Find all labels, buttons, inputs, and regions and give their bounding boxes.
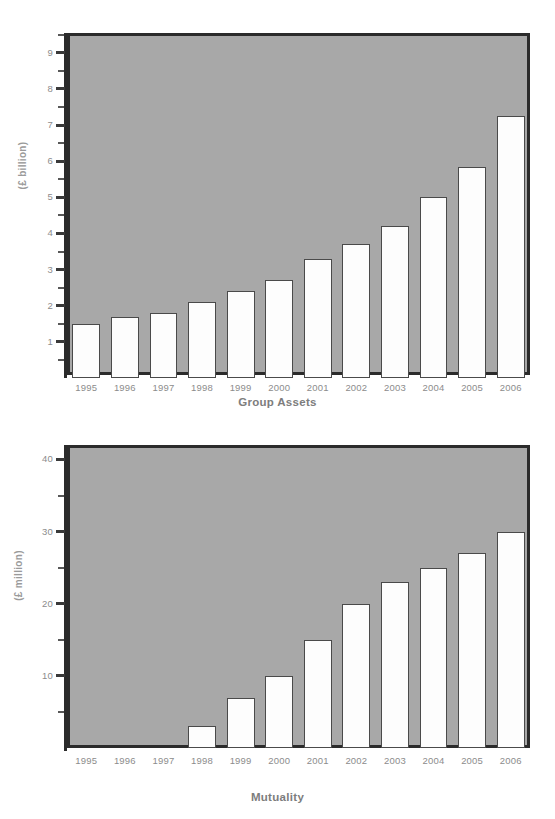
x-tick-label-1998: 1998: [183, 382, 222, 393]
y-tick-label: 4: [29, 227, 53, 238]
bar-group-assets-2005: [458, 167, 486, 378]
y-tick-label: 1: [29, 336, 53, 347]
y-tick-label: 40: [29, 453, 53, 464]
bar-group-assets-1999: [227, 291, 255, 378]
y-tick-label: 6: [29, 155, 53, 166]
y-axis-line: [64, 445, 67, 751]
x-tick-label-2003: 2003: [376, 382, 415, 393]
bar-group-assets-1998: [188, 302, 216, 378]
bar-group-assets-1995: [72, 324, 100, 378]
y-tick-major: [56, 196, 65, 199]
y-tick-label: 3: [29, 264, 53, 275]
y-tick-minor: [58, 251, 64, 253]
x-tick-label-1995: 1995: [67, 755, 106, 766]
y-tick-major: [56, 160, 65, 163]
bar-mutuality-2001: [304, 640, 332, 748]
x-tick-label-1997: 1997: [144, 755, 183, 766]
y-tick-major: [56, 602, 65, 605]
chart-mutuality: 10203040 1995199619971998199920002001200…: [0, 420, 555, 819]
x-tick-label-2005: 2005: [453, 755, 492, 766]
bar-group-assets-2003: [381, 226, 409, 378]
chart-group-assets: 123456789 199519961997199819992000200120…: [0, 0, 555, 420]
y-tick-major: [56, 530, 65, 533]
x-tick-label-2000: 2000: [260, 382, 299, 393]
x-tick-label-1995: 1995: [67, 382, 106, 393]
x-tick-label-2006: 2006: [491, 382, 530, 393]
x-tick-label-1999: 1999: [221, 382, 260, 393]
chart-title-group-assets: Group Assets: [0, 396, 555, 408]
y-tick-major: [56, 304, 65, 307]
y-tick-minor: [58, 106, 64, 108]
plot-area-mutuality: [67, 445, 530, 748]
y-tick-minor: [58, 323, 64, 325]
x-tick-label-2004: 2004: [414, 755, 453, 766]
bar-mutuality-2005: [458, 553, 486, 748]
x-tick-label-2003: 2003: [376, 755, 415, 766]
x-tick-label-2000: 2000: [260, 755, 299, 766]
y-axis-title-group-assets: (£ billion): [17, 126, 28, 206]
y-tick-major: [56, 340, 65, 343]
y-tick-minor: [58, 34, 64, 36]
y-tick-minor: [58, 287, 64, 289]
y-tick-label: 30: [29, 526, 53, 537]
y-axis-title-mutuality: (£ million): [13, 536, 24, 616]
bars-layer-group-assets: [70, 36, 527, 372]
y-tick-minor: [58, 495, 64, 497]
bar-group-assets-2000: [265, 280, 293, 378]
x-tick-label-1999: 1999: [221, 755, 260, 766]
x-tick-label-1996: 1996: [106, 755, 145, 766]
y-tick-minor: [58, 567, 64, 569]
x-tick-label-2001: 2001: [299, 755, 338, 766]
plot-area-group-assets: [67, 33, 530, 375]
bar-mutuality-1999: [227, 698, 255, 749]
y-tick-minor: [58, 214, 64, 216]
chart-title-mutuality: Mutuality: [0, 791, 555, 803]
x-tick-label-2002: 2002: [337, 382, 376, 393]
y-tick-minor: [58, 359, 64, 361]
y-tick-minor: [58, 70, 64, 72]
x-tick-label-1998: 1998: [183, 755, 222, 766]
bar-group-assets-2006: [497, 116, 525, 378]
bar-mutuality-2004: [420, 568, 448, 748]
bar-group-assets-1996: [111, 317, 139, 378]
bar-group-assets-2002: [342, 244, 370, 378]
y-axis-line: [64, 33, 67, 378]
y-tick-label: 10: [29, 670, 53, 681]
x-tick-label-2001: 2001: [299, 382, 338, 393]
bars-layer-mutuality: [70, 448, 527, 745]
y-tick-minor: [58, 711, 64, 713]
x-tick-label-1996: 1996: [106, 382, 145, 393]
bar-group-assets-2004: [420, 197, 448, 378]
y-tick-label: 2: [29, 300, 53, 311]
x-tick-label-2006: 2006: [491, 755, 530, 766]
bar-mutuality-2006: [497, 532, 525, 748]
y-tick-label: 9: [29, 47, 53, 58]
x-tick-label-2002: 2002: [337, 755, 376, 766]
y-tick-major: [56, 124, 65, 127]
y-tick-label: 7: [29, 119, 53, 130]
y-tick-label: 5: [29, 191, 53, 202]
bar-group-assets-1997: [150, 313, 178, 378]
y-tick-label: 20: [29, 598, 53, 609]
y-tick-minor: [58, 178, 64, 180]
bar-mutuality-2002: [342, 604, 370, 748]
y-tick-major: [56, 674, 65, 677]
y-tick-major: [56, 51, 65, 54]
bar-group-assets-2001: [304, 259, 332, 378]
bar-mutuality-2000: [265, 676, 293, 748]
y-tick-major: [56, 87, 65, 90]
x-tick-label-2004: 2004: [414, 382, 453, 393]
y-tick-minor: [58, 142, 64, 144]
y-tick-major: [56, 268, 65, 271]
x-tick-label-2005: 2005: [453, 382, 492, 393]
y-tick-minor: [58, 639, 64, 641]
bar-mutuality-2003: [381, 582, 409, 748]
y-tick-major: [56, 458, 65, 461]
bar-mutuality-1998: [188, 726, 216, 748]
x-tick-label-1997: 1997: [144, 382, 183, 393]
y-tick-label: 8: [29, 83, 53, 94]
y-tick-major: [56, 232, 65, 235]
